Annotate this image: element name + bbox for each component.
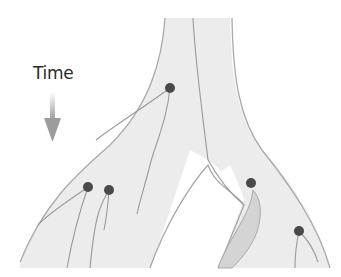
node-dot	[294, 226, 304, 236]
node-dot	[246, 178, 256, 188]
species-tree-diagram	[0, 0, 341, 277]
node-dot	[83, 182, 93, 192]
time-arrow-icon	[44, 92, 61, 142]
node-dot	[165, 83, 175, 93]
node-dot	[104, 185, 114, 195]
